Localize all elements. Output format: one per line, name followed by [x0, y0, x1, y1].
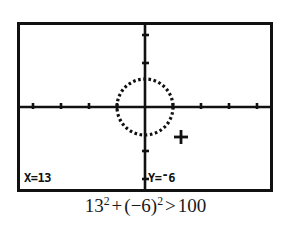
caption-exponent-2: 2	[157, 195, 163, 208]
trace-x-readout: X=13	[24, 172, 51, 184]
trace-x-label: X=	[24, 171, 37, 185]
trace-y-value: 6	[168, 171, 175, 185]
trace-y-readout: Y=-6	[148, 172, 175, 184]
trace-y-label: Y=	[148, 171, 161, 185]
caption-equation: 132+(−6)2>100	[0, 196, 291, 217]
trace-x-value: 13	[37, 171, 50, 185]
graph-svg	[20, 25, 270, 189]
caption-right-hand-side: 100	[178, 195, 207, 216]
graph-plot-area[interactable]	[20, 25, 270, 189]
calculator-screen: X=13 Y=-6	[17, 22, 273, 192]
trace-cursor-icon[interactable]	[174, 130, 188, 144]
caption-relation-operator: >	[165, 195, 176, 216]
caption-plus-operator: +	[112, 195, 123, 216]
caption-exponent-1: 2	[104, 195, 110, 208]
caption-base-2: 6	[141, 195, 151, 216]
trace-y-negative-sign: -	[161, 169, 168, 181]
caption-base-1: 13	[85, 195, 104, 216]
caption-minus-sign: −	[131, 195, 142, 216]
